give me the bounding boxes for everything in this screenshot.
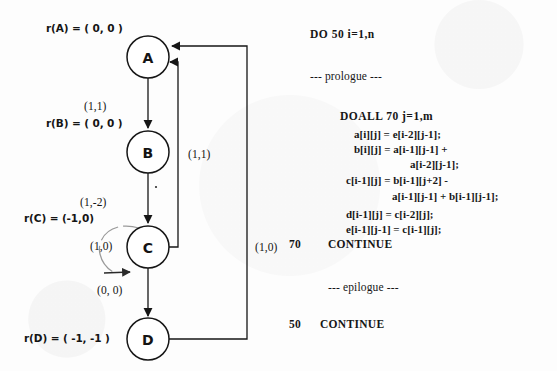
code-line-assign-c-2: a[i-1][j-1] + b[i-1][j-1]; <box>392 190 498 202</box>
code-line-do-50: DO 50 i=1,n <box>310 28 375 40</box>
graph-canvas: A B C D <box>0 0 290 371</box>
code-line-assign-e: e[i-1][j-1] = c[i-1][j]; <box>346 223 441 235</box>
code-line-assign-a: a[i][j] = e[i-2][j-1]; <box>354 128 441 140</box>
edge-weight-b-c: (1,-2) <box>80 196 106 208</box>
edge-c-self-loop-tail <box>104 272 130 273</box>
code-line-epilogue: --- epilogue --- <box>328 281 399 293</box>
code-label-50: 50 <box>289 318 301 330</box>
code-line-assign-b-2: a[i-2][j-1]; <box>410 158 459 170</box>
edge-c-to-a <box>169 62 178 247</box>
code-line-assign-b-1: b[i][j] = a[i-1][j-1] + <box>354 143 447 155</box>
code-line-assign-d: d[i-1][j] = c[i-2][j]; <box>346 208 434 220</box>
graph-node-c: C <box>127 226 169 268</box>
node-a-label: A <box>142 50 153 66</box>
node-c-annotation: r(C) = (-1,0) <box>24 212 94 224</box>
edge-weight-c-a: (1,1) <box>188 148 211 160</box>
edge-weight-c-d: (0, 0) <box>97 284 123 296</box>
node-d-annotation: r(D) = ( -1, -1 ) <box>24 332 110 344</box>
figure-page: A B C D r(A) = ( 0, 0 ) r(B) = ( 0, 0 ) … <box>0 0 557 371</box>
node-c-label: C <box>143 240 153 256</box>
dependence-graph: A B C D r(A) = ( 0, 0 ) r(B) = ( 0, 0 ) … <box>0 0 290 371</box>
node-b-annotation: r(B) = ( 0, 0 ) <box>46 117 123 129</box>
node-b-label: B <box>143 145 154 161</box>
graph-node-b: B <box>127 131 169 173</box>
graph-node-a: A <box>127 36 169 78</box>
node-d-label: D <box>142 332 154 348</box>
code-line-assign-c-1: c[i-1][j] = b[i-1][j+2] - <box>346 174 448 186</box>
edge-weight-a-b: (1,1) <box>84 100 107 112</box>
code-line-doall-70: DOALL 70 j=1,m <box>340 110 433 122</box>
edge-d-to-a <box>169 46 247 339</box>
scan-speck <box>155 186 157 188</box>
edge-weight-c-self: (1,0) <box>90 240 113 252</box>
code-label-70: 70 <box>289 238 301 250</box>
code-line-continue-70: CONTINUE <box>328 238 392 250</box>
code-line-continue-50: CONTINUE <box>320 318 384 330</box>
code-line-prologue: --- prologue --- <box>310 70 382 82</box>
loop-code-listing: DO 50 i=1,n --- prologue --- DOALL 70 j=… <box>292 0 557 371</box>
node-a-annotation: r(A) = ( 0, 0 ) <box>46 22 123 34</box>
edge-weight-d-a: (1,0) <box>255 241 278 253</box>
graph-node-d: D <box>127 318 169 360</box>
